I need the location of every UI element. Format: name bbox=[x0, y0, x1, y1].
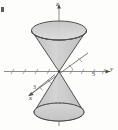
cone-upper-nappe bbox=[32, 21, 87, 72]
cone-lower-nappe bbox=[34, 72, 84, 122]
cone-vertex-origin bbox=[58, 70, 60, 72]
figure-canvas: z y x 3 3 bbox=[0, 0, 118, 130]
cone-diagram-svg bbox=[0, 0, 118, 130]
axis-label-z: z bbox=[56, 1, 59, 8]
axis-label-x: x bbox=[29, 95, 32, 102]
tick-label-y-3: 3 bbox=[92, 71, 95, 77]
tick-label-x-3: 3 bbox=[33, 84, 36, 90]
axis-label-y: y bbox=[110, 66, 113, 73]
